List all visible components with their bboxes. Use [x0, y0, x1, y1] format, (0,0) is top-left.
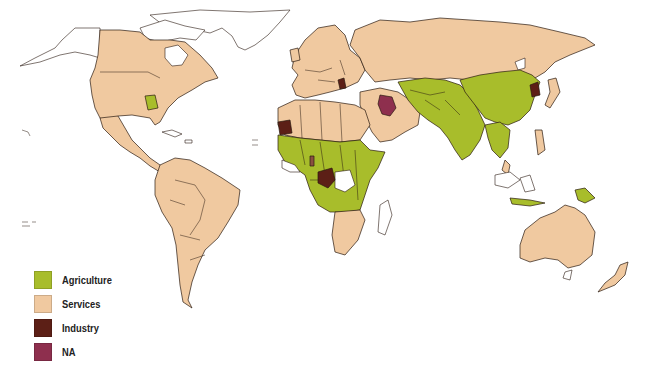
- region-western-sahara: [278, 120, 292, 135]
- region-southeast-asia: [485, 122, 510, 158]
- legend-item-agriculture: Agriculture: [34, 270, 121, 289]
- legend-label: Industry: [62, 322, 99, 334]
- legend-swatch-services: [34, 295, 52, 313]
- legend-label: NA: [62, 346, 76, 358]
- region-new-zealand: [598, 262, 628, 292]
- region-north-africa: [278, 100, 370, 142]
- legend-label: Agriculture: [62, 274, 112, 286]
- region-north-korea: [530, 82, 540, 97]
- legend-swatch-industry: [34, 319, 52, 337]
- region-papua-new-guinea: [575, 188, 595, 203]
- region-australia: [520, 205, 595, 268]
- region-russia: [350, 18, 595, 82]
- region-north-america: [90, 30, 218, 125]
- legend-item-industry: Industry: [34, 318, 121, 337]
- legend-label: Services: [62, 298, 100, 310]
- map-legend: Agriculture Services Industry NA: [34, 270, 121, 366]
- legend-item-services: Services: [34, 294, 121, 313]
- region-alaska: [20, 28, 100, 66]
- legend-swatch-na: [34, 343, 52, 361]
- region-southern-africa: [332, 210, 365, 255]
- region-south-america: [155, 158, 240, 308]
- legend-swatch-agriculture: [34, 271, 52, 289]
- legend-item-na: NA: [34, 342, 121, 361]
- region-central-america: [100, 116, 168, 172]
